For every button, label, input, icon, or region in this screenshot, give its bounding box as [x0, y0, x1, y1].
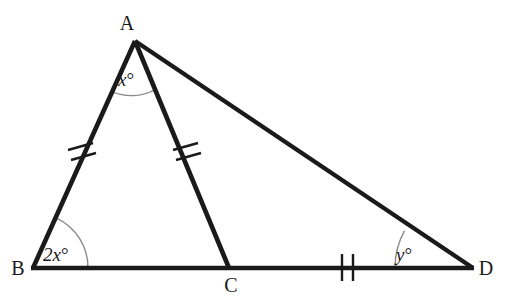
segment-ad [135, 41, 473, 268]
angle-label-d-degree: ° [404, 244, 412, 265]
vertex-label-d: D [479, 257, 493, 279]
figure-segments [31, 41, 474, 268]
geometry-diagram-canvas: A B C D x° 2x° y° [0, 0, 511, 306]
angle-label-d: y° [394, 244, 412, 265]
vertex-label-c: C [224, 274, 237, 296]
tick-mark-ab [68, 143, 96, 160]
angle-label-b-degree: ° [61, 244, 69, 265]
geometry-figure: A B C D x° 2x° y° [0, 0, 511, 306]
angle-label-b: 2x° [43, 244, 69, 265]
angle-label-d-var: y [394, 244, 405, 265]
vertex-label-a: A [120, 12, 135, 34]
vertex-label-b: B [11, 257, 24, 279]
angle-arc-A [112, 89, 156, 95]
angle-label-a: x° [117, 69, 134, 90]
angle-label-a-degree: ° [126, 69, 134, 90]
congruence-ticks [68, 143, 353, 281]
angle-arcs [57, 89, 405, 268]
angle-label-b-var: 2x [43, 244, 62, 265]
